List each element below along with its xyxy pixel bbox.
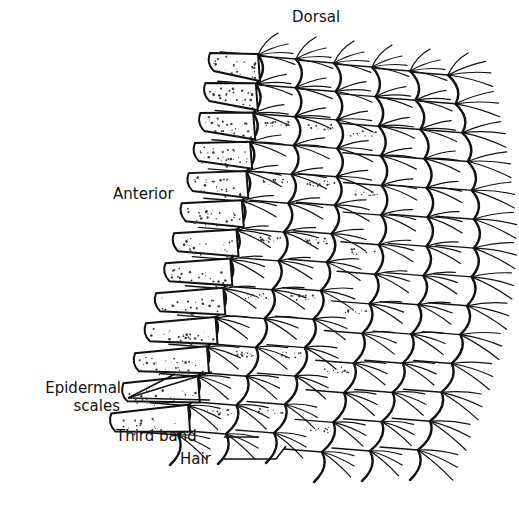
stipple-dot: [359, 313, 360, 314]
hair-strand: [344, 393, 377, 405]
stipple-dot: [232, 149, 234, 151]
stipple-dot: [279, 237, 281, 239]
stipple-dot: [190, 307, 192, 309]
stipple-dot: [221, 130, 223, 132]
stipple-dot: [323, 241, 324, 242]
label-third-band: Third band: [116, 428, 197, 445]
stipple-dot: [287, 121, 289, 123]
stipple-dot: [363, 131, 364, 132]
stipple-dot: [362, 250, 363, 251]
stipple-dot: [213, 63, 214, 64]
stipple-dot: [305, 295, 307, 297]
stipple-dot: [216, 188, 217, 189]
hair-strand: [472, 182, 511, 190]
hair-strand: [313, 317, 345, 319]
stipple-dot: [173, 358, 175, 360]
scale-divider: [247, 402, 285, 405]
stipple-dot: [237, 61, 238, 62]
hair-strand: [375, 274, 408, 292]
stipple-dot: [324, 129, 326, 131]
stipple-dot: [214, 61, 215, 62]
stipple-dot: [353, 248, 355, 250]
stipple-dot: [168, 338, 171, 341]
stipple-dot: [220, 72, 221, 73]
stipple-dot: [263, 181, 265, 183]
stipple-dot: [250, 93, 251, 94]
scale-divider: [275, 316, 313, 319]
stipple-dot: [308, 124, 310, 126]
stipple-dot: [256, 410, 257, 411]
stipple-dot: [193, 343, 194, 344]
stipple-dot: [318, 428, 319, 429]
stipple-dot: [192, 362, 193, 363]
stipple-dot: [233, 92, 235, 94]
stipple-dot: [308, 299, 309, 300]
stipple-dot: [252, 107, 254, 109]
scale-divider: [299, 174, 337, 177]
stipple-dot: [292, 295, 293, 296]
stipple-dot: [316, 130, 317, 131]
stipple-dot: [225, 70, 226, 71]
stipple-dot: [187, 208, 189, 210]
stipple-dot: [244, 353, 245, 354]
stipple-dot: [147, 403, 148, 404]
stipple-dot: [259, 236, 261, 238]
stipple-dot: [158, 374, 160, 376]
hair-strand: [279, 261, 313, 268]
stipple-dot: [205, 182, 206, 183]
stipple-dot: [368, 194, 370, 196]
stipple-dot: [272, 121, 274, 123]
stipple-dot: [190, 343, 192, 345]
stipple-dot: [317, 185, 319, 187]
stipple-dot: [145, 357, 147, 359]
stipple-dot: [270, 122, 271, 123]
stipple-dot: [221, 160, 222, 161]
stipple-dot: [178, 314, 179, 315]
stipple-dot: [161, 298, 162, 299]
hair-strand: [375, 274, 409, 281]
stipple-dot: [212, 180, 214, 182]
anterior-scale: [134, 346, 209, 373]
stipple-dot: [343, 370, 345, 372]
stipple-dot: [155, 369, 157, 371]
hair-strand: [256, 348, 289, 359]
stipple-dot: [236, 354, 238, 356]
stipple-dot: [240, 73, 241, 74]
scale-divider: [344, 183, 382, 186]
stipple-dot: [330, 431, 331, 432]
stipple-dot: [151, 418, 153, 420]
stipple-dot: [201, 299, 203, 301]
stipple-dot: [302, 295, 304, 297]
stipple-dot: [348, 132, 349, 133]
hair-strand: [230, 260, 264, 267]
stipple-dot: [140, 369, 142, 371]
stipple-dot: [226, 95, 227, 96]
stipple-dot: [324, 180, 326, 182]
stipple-dot: [179, 248, 180, 249]
stipple-dot: [351, 249, 352, 250]
scale-divider: [343, 212, 381, 215]
hair-strand: [403, 363, 436, 374]
stipple-dot: [200, 251, 201, 252]
stipple-dot: [245, 298, 246, 299]
stipple-dot: [221, 189, 223, 191]
stipple-dot: [226, 251, 227, 252]
stipple-dot: [203, 191, 204, 192]
hair-strand: [416, 98, 451, 100]
stipple-dot: [207, 410, 208, 411]
stipple-dot: [153, 387, 154, 388]
hair-strand: [456, 102, 499, 104]
stipple-dot: [225, 163, 227, 165]
stipple-dot: [310, 429, 311, 430]
scale-divider: [332, 448, 370, 451]
stipple-dot: [226, 134, 227, 135]
hair-strand: [305, 348, 338, 359]
stipple-dot: [154, 405, 155, 406]
stipple-dot: [188, 239, 189, 240]
stipple-dot: [220, 271, 222, 273]
stipple-dot: [351, 251, 353, 253]
stipple-dot: [319, 183, 321, 185]
scale-divider: [378, 97, 416, 100]
stipple-dot: [313, 186, 314, 187]
stipple-dot: [262, 413, 264, 415]
